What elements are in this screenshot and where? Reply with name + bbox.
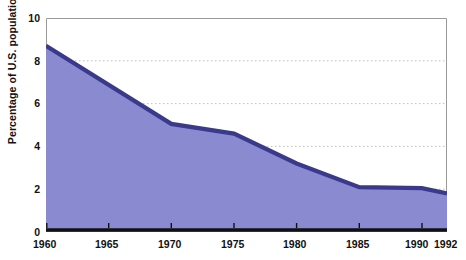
x-tick-1965: 1965 [95, 239, 118, 250]
area-chart-svg [46, 18, 447, 232]
x-tick-1985: 1985 [346, 239, 369, 250]
y-tick-4: 4 [14, 141, 40, 152]
x-tick-1992: 1992 [434, 239, 457, 250]
plot-area [46, 18, 447, 232]
x-tick-1970: 1970 [158, 239, 181, 250]
x-tick-1960: 1960 [33, 239, 56, 250]
clipped-title-band [0, 0, 466, 7]
chart-figure: Percentage of U.S. population 10 8 6 4 2… [0, 0, 466, 260]
y-tick-2: 2 [14, 184, 40, 195]
x-tick-1975: 1975 [221, 239, 244, 250]
y-tick-0: 0 [14, 227, 40, 238]
x-tick-1980: 1980 [283, 239, 306, 250]
x-tick-1990: 1990 [405, 239, 428, 250]
y-tick-10: 10 [14, 13, 40, 24]
y-tick-6: 6 [14, 98, 40, 109]
y-tick-8: 8 [14, 56, 40, 67]
